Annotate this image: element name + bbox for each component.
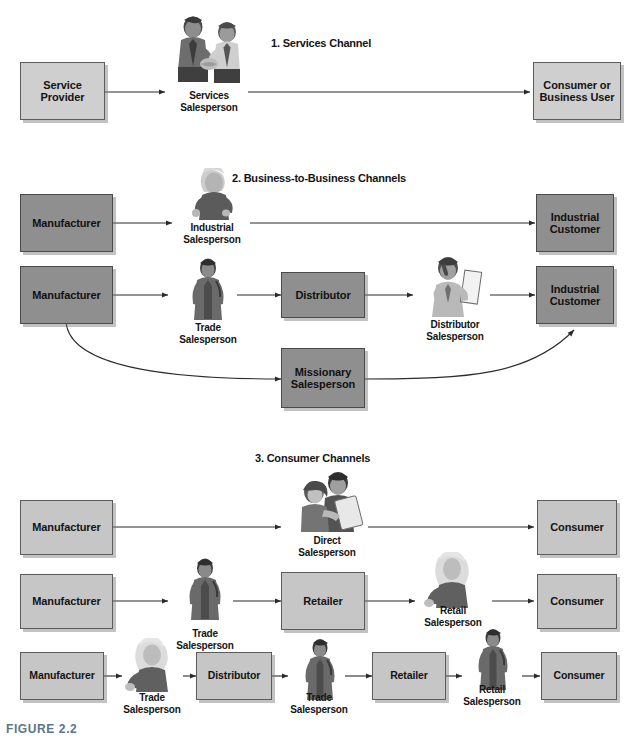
box-consumer-3[interactable]: Consumer [541, 652, 617, 700]
box-manufacturer-consumer-3[interactable]: Manufacturer [20, 652, 104, 700]
retail-salesperson-illustration-c2 [420, 552, 484, 608]
industrial-salesperson-illustration [183, 168, 245, 220]
box-retailer-2[interactable]: Retailer [281, 572, 365, 630]
box-distributor-consumer-3[interactable]: Distributor [196, 652, 272, 700]
box-service-provider[interactable]: ServiceProvider [20, 62, 105, 120]
box-manufacturer-b2b-a[interactable]: Manufacturer [20, 194, 113, 252]
figure-canvas: 1. Services Channel 2. Business-to-Busin… [0, 0, 634, 750]
label-text: ServicesSalesperson [180, 90, 237, 113]
box-manufacturer-consumer-2[interactable]: Manufacturer [20, 574, 113, 629]
label-text: DirectSalesperson [298, 535, 355, 558]
trade-salesperson-illustration-b2b [183, 257, 233, 325]
services-salesperson-illustration [168, 14, 250, 86]
distributor-salesperson-illustration [418, 255, 488, 317]
label-services-salesperson: ServicesSalesperson [168, 90, 250, 114]
figure-caption: FIGURE 2.2 [6, 722, 77, 736]
label-trade-salesperson-consumer-3a: TradeSalesperson [111, 692, 193, 716]
box-manufacturer-consumer-1[interactable]: Manufacturer [20, 500, 113, 555]
label-text: DistributorSalesperson [426, 319, 483, 342]
section-title-b2b: 2. Business-to-Business Channels [232, 172, 406, 184]
box-distributor-b2b[interactable]: Distributor [281, 272, 365, 318]
trade-salesperson-illustration-c3b [297, 638, 343, 700]
box-industrial-customer-b[interactable]: IndustrialCustomer [536, 266, 614, 324]
label-industrial-salesperson: IndustrialSalesperson [172, 222, 252, 246]
label-text: TradeSalesperson [123, 692, 180, 715]
label-text: TradeSalesperson [290, 692, 347, 715]
label-trade-salesperson-b2b: TradeSalesperson [167, 322, 249, 346]
label-text: TradeSalesperson [176, 628, 233, 651]
label-retail-salesperson-consumer-2: RetailSalesperson [413, 605, 493, 629]
box-consumer-2[interactable]: Consumer [537, 574, 617, 629]
section-title-services: 1. Services Channel [271, 37, 371, 49]
label-retail-salesperson-consumer-3: RetailSalesperson [451, 684, 533, 708]
label-direct-salesperson: DirectSalesperson [285, 535, 369, 559]
label-text: IndustrialSalesperson [183, 222, 240, 245]
direct-salesperson-illustration [288, 470, 368, 532]
trade-salesperson-illustration-c2 [180, 557, 230, 625]
box-consumer-1[interactable]: Consumer [537, 500, 617, 555]
retail-salesperson-illustration-c3 [470, 628, 516, 690]
label-distributor-salesperson: DistributorSalesperson [413, 319, 497, 343]
box-industrial-customer-a[interactable]: IndustrialCustomer [536, 194, 614, 252]
label-text: RetailSalesperson [463, 684, 520, 707]
box-consumer-or-business-user[interactable]: Consumer orBusiness User [533, 62, 621, 120]
section-title-consumer: 3. Consumer Channels [255, 452, 370, 464]
box-retailer-3[interactable]: Retailer [372, 652, 446, 700]
label-text: TradeSalesperson [179, 322, 236, 345]
trade-salesperson-illustration-c3a [122, 638, 182, 692]
label-text: RetailSalesperson [424, 605, 481, 628]
label-trade-salesperson-consumer-3b: TradeSalesperson [278, 692, 360, 716]
box-manufacturer-b2b-b[interactable]: Manufacturer [20, 266, 113, 324]
box-missionary-salesperson[interactable]: MissionarySalesperson [281, 348, 365, 408]
